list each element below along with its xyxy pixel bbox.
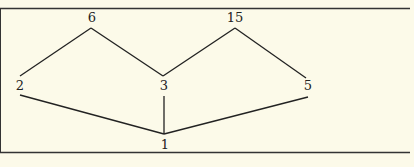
node-label-1: 1 (161, 137, 169, 152)
edge-1-5 (164, 97, 308, 134)
node-label-3: 3 (160, 78, 168, 93)
node-label-6: 6 (88, 10, 96, 25)
node-label-5: 5 (304, 78, 312, 93)
node-label-2: 2 (16, 78, 24, 93)
hasse-diagram: 6 15 2 3 5 1 (0, 0, 414, 167)
edge-3-6 (91, 28, 163, 76)
node-label-15: 15 (227, 10, 244, 25)
edge-5-15 (235, 28, 306, 78)
edge-2-6 (20, 28, 91, 76)
edge-1-2 (20, 95, 164, 134)
edge-3-15 (163, 28, 235, 76)
